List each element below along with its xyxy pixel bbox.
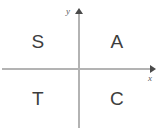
quadrant-label-upper-right: A	[105, 32, 129, 51]
quadrant-label-upper-left: S	[26, 32, 50, 51]
x-axis-arrowhead-icon	[150, 65, 156, 73]
quadrant-label-lower-right: C	[105, 89, 129, 108]
quadrant-label-lower-left: T	[26, 89, 50, 108]
y-axis-label: y	[66, 7, 70, 16]
x-axis-label: x	[148, 74, 152, 83]
x-axis-line	[2, 68, 152, 70]
coordinate-plane-diagram: y x S A T C	[0, 0, 164, 136]
y-axis-arrowhead-icon	[75, 8, 83, 14]
y-axis-line	[78, 14, 80, 128]
